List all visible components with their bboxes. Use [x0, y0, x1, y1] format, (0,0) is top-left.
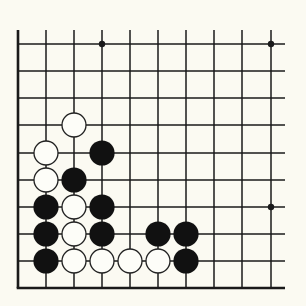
black-stone — [89, 140, 114, 165]
white-stone — [62, 222, 86, 246]
white-stone — [34, 168, 58, 192]
star-point-icon — [268, 41, 274, 47]
black-stone — [33, 248, 58, 273]
black-stone — [145, 221, 170, 246]
white-stone — [62, 249, 86, 273]
white-stone — [118, 249, 142, 273]
black-stone — [173, 248, 198, 273]
go-board-diagram — [0, 0, 306, 306]
white-stone — [34, 141, 58, 165]
stones — [33, 113, 198, 274]
white-stone — [62, 195, 86, 219]
black-stone — [33, 221, 58, 246]
black-stone — [33, 194, 58, 219]
star-point-icon — [268, 204, 274, 210]
black-stone — [173, 221, 198, 246]
white-stone — [146, 249, 170, 273]
black-stone — [61, 167, 86, 192]
white-stone — [90, 249, 114, 273]
go-board — [0, 0, 306, 306]
star-point-icon — [99, 41, 105, 47]
white-stone — [62, 113, 86, 137]
black-stone — [89, 194, 114, 219]
black-stone — [89, 221, 114, 246]
